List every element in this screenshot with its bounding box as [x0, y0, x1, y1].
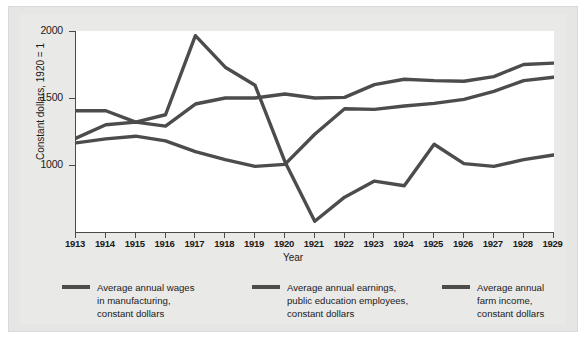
x-tick-mark	[463, 233, 464, 238]
x-tick-mark	[523, 233, 524, 238]
legend-item: Average annual earnings, public educatio…	[252, 281, 408, 320]
legend-label: Average annual earnings, public educatio…	[287, 281, 408, 320]
x-tick-mark	[284, 233, 285, 238]
legend-label: Average annual farm income, constant dol…	[477, 281, 544, 320]
x-tick-mark	[254, 233, 255, 238]
series-line-1	[76, 77, 554, 166]
legend-swatch-icon	[442, 285, 470, 289]
legend-swatch-icon	[252, 285, 280, 289]
chart-legend: Average annual wages in manufacturing, c…	[62, 281, 562, 329]
x-tick-mark	[75, 233, 76, 238]
x-tick-mark	[135, 233, 136, 238]
x-tick-mark	[224, 233, 225, 238]
x-tick-mark	[314, 233, 315, 238]
legend-item: Average annual farm income, constant dol…	[442, 281, 544, 320]
plot-area	[75, 31, 554, 233]
legend-swatch-icon	[62, 285, 90, 289]
legend-item: Average annual wages in manufacturing, c…	[62, 281, 194, 320]
x-tick-mark	[194, 233, 195, 238]
y-tick-label: 2000	[23, 24, 63, 36]
series-lines	[76, 31, 554, 232]
x-tick-mark	[403, 233, 404, 238]
x-tick-mark	[373, 233, 374, 238]
x-tick-mark	[344, 233, 345, 238]
y-tick-label: 1000	[23, 158, 63, 170]
y-tick-label: 1500	[23, 91, 63, 103]
x-tick-label: 1929	[533, 238, 573, 249]
series-line-0	[76, 63, 554, 138]
x-tick-mark	[433, 233, 434, 238]
x-tick-mark	[493, 233, 494, 238]
legend-label: Average annual wages in manufacturing, c…	[97, 281, 194, 320]
x-tick-mark	[165, 233, 166, 238]
chart-page: Constant dollars, 1920 = 1 100015002000 …	[0, 0, 586, 339]
x-tick-mark	[553, 233, 554, 238]
x-tick-mark	[105, 233, 106, 238]
series-line-2	[76, 36, 554, 222]
x-axis-title: Year	[0, 252, 586, 263]
